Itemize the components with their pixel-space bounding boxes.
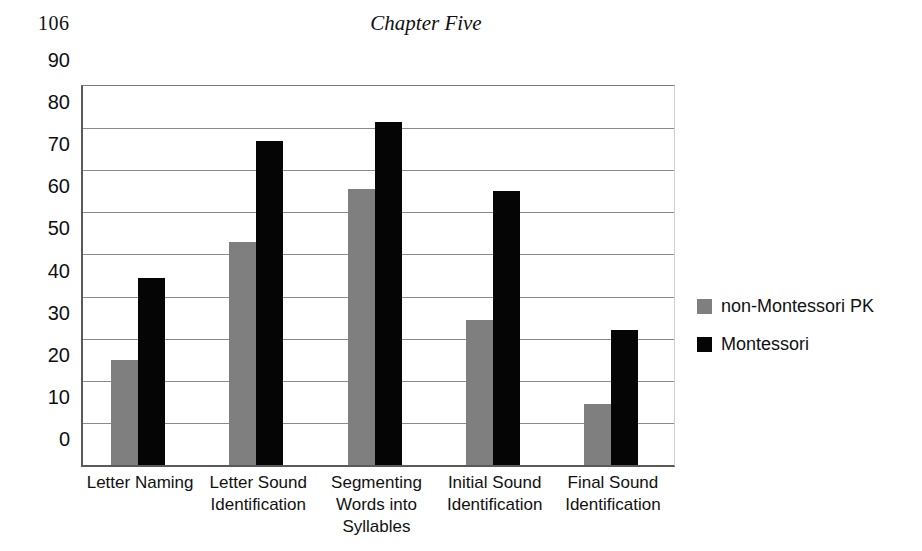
x-axis-category-label: Segmenting Words into Syllables <box>309 472 443 538</box>
y-axis-tick-label: 10 <box>10 387 70 407</box>
legend-item-non-montessori-pk: non-Montessori PK <box>697 287 874 325</box>
y-axis-tick-label: 80 <box>10 92 70 112</box>
running-head: Chapter Five <box>0 11 922 36</box>
bar <box>611 330 638 465</box>
x-axis-category-label: Final Sound Identification <box>546 472 680 516</box>
legend-label: Montessori <box>721 335 809 353</box>
y-axis-tick-label: 20 <box>10 345 70 365</box>
y-axis-tick-label: 30 <box>10 303 70 323</box>
bar <box>493 191 520 465</box>
y-axis-tick-labels: 0102030405060708090 <box>10 60 70 464</box>
bar <box>229 242 256 465</box>
y-axis-tick-label: 40 <box>10 261 70 281</box>
bar <box>466 320 493 465</box>
bar <box>348 189 375 465</box>
bar <box>584 404 611 465</box>
bar <box>256 141 283 465</box>
y-axis-tick-label: 90 <box>10 50 70 70</box>
legend-label: non-Montessori PK <box>721 297 874 315</box>
bar <box>375 122 402 465</box>
y-axis-tick-label: 50 <box>10 218 70 238</box>
y-axis-tick-label: 0 <box>10 429 70 449</box>
bar <box>111 360 138 465</box>
legend-item-montessori: Montessori <box>697 325 874 363</box>
bar <box>138 278 165 465</box>
chart-legend: non-Montessori PK Montessori <box>697 287 874 363</box>
legend-swatch-icon-black <box>697 337 712 352</box>
x-axis-category-label: Letter Naming <box>73 472 207 494</box>
x-axis-category-label: Initial Sound Identification <box>428 472 562 516</box>
y-axis-tick-label: 70 <box>10 134 70 154</box>
x-axis-category-label: Letter Sound Identification <box>191 472 325 516</box>
plot-area <box>81 85 675 467</box>
bar-chart: 0102030405060708090 Letter NamingLetter … <box>0 60 922 551</box>
legend-swatch-icon-gray <box>697 299 712 314</box>
y-axis-tick-label: 60 <box>10 176 70 196</box>
